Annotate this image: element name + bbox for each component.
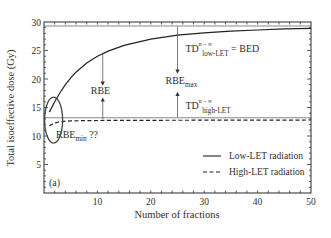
annotation-label: TDn→∞low-LET = BED xyxy=(186,41,260,58)
annotation-label: RBEmin ?? xyxy=(56,129,99,143)
x-tick-label: 10 xyxy=(93,197,103,207)
low-let-curve xyxy=(49,28,311,112)
chart-figure: 1020304050 51015202530 RBERBEmaxTDn→∞low… xyxy=(0,0,331,238)
y-tick-label: 15 xyxy=(32,103,42,113)
high-let-curve xyxy=(49,120,311,126)
x-tick-label: 20 xyxy=(146,197,156,207)
chart-plot: 1020304050 51015202530 RBERBEmaxTDn→∞low… xyxy=(0,0,331,238)
y-axis-label: Total isoeffective dose (Gy) xyxy=(5,49,17,167)
y-axis-ticks: 51015202530 xyxy=(32,18,312,188)
y-tick-label: 25 xyxy=(32,46,42,56)
panel-label: (a) xyxy=(49,177,60,189)
y-tick-label: 30 xyxy=(32,18,42,28)
y-tick-label: 20 xyxy=(32,75,42,85)
annotation-label: RBEmax xyxy=(166,75,198,89)
x-tick-label: 30 xyxy=(199,197,209,207)
legend-label-low-let: Low-LET radiation xyxy=(229,151,303,161)
annotations: RBERBEmaxTDn→∞low-LET = BEDTDn→∞high-LET… xyxy=(45,27,260,144)
legend: Low-LET radiation High-LET radiation xyxy=(203,151,305,177)
y-tick-label: 10 xyxy=(32,132,42,142)
x-axis-label: Number of fractions xyxy=(134,209,219,220)
y-tick-label: 5 xyxy=(36,160,41,170)
legend-label-high-let: High-LET radiation xyxy=(229,167,305,177)
annotation-label: TDn→∞high-LET xyxy=(186,98,232,115)
x-tick-label: 40 xyxy=(253,197,263,207)
x-tick-label: 50 xyxy=(306,197,316,207)
annotation-label: RBE xyxy=(91,85,110,96)
